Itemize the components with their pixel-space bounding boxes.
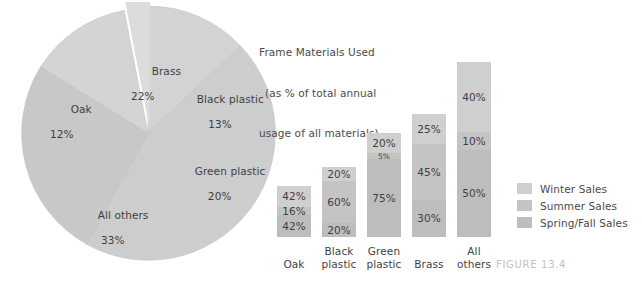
bar-category-label: Allothers <box>447 245 501 270</box>
bar-category-label-line-2: others <box>447 258 501 271</box>
pie-chart: Brass 22% Black plastic 13% Oak 12% Gree… <box>14 2 284 270</box>
pie-label-green-plastic: Green plastic 20% <box>174 152 265 227</box>
bar-segment-winter-sales[interactable]: 40% <box>457 62 491 132</box>
pie-label-all-others-name: All others <box>98 209 149 221</box>
bar-stack[interactable]: 40%10%50% <box>457 62 491 237</box>
bar-segment-value: 20% <box>327 224 351 236</box>
pie-label-oak-name: Oak <box>71 103 92 115</box>
stacked-bar-chart: 42%16%42%Oak20%60%20%Blackplastic20%5%75… <box>270 45 520 270</box>
bar-segment-value: 10% <box>462 135 486 147</box>
bar-segment-spring-fall-sales[interactable]: 20% <box>322 223 356 237</box>
legend-item-winter-sales[interactable]: Winter Sales <box>517 180 637 197</box>
bar-segment-value: 75% <box>372 192 396 204</box>
pie-label-oak: Oak 12% <box>50 90 92 165</box>
bar-segment-winter-sales[interactable]: 20% <box>367 133 401 154</box>
bar-segment-summer-sales[interactable]: 45% <box>412 144 446 200</box>
bar-stack[interactable]: 20%5%75% <box>367 133 401 238</box>
legend-item-summer-sales[interactable]: Summer Sales <box>517 197 637 214</box>
pie-label-black-plastic-name: Black plastic <box>197 93 264 105</box>
bar-stack[interactable]: 20%60%20% <box>322 167 356 237</box>
legend-item-spring-fall-sales[interactable]: Spring/Fall Sales <box>517 214 637 231</box>
bar-segment-value: 42% <box>282 220 306 232</box>
bar-segment-summer-sales[interactable]: 60% <box>322 181 356 223</box>
bar-segment-spring-fall-sales[interactable]: 30% <box>412 200 446 237</box>
bar-stack[interactable]: 25%45%30% <box>412 114 446 238</box>
bar-segment-value: 60% <box>327 196 351 208</box>
bar-segment-value: 20% <box>372 137 396 149</box>
bar-segment-value: 42% <box>282 190 306 202</box>
pie-label-brass-name: Brass <box>152 65 181 77</box>
bar-segment-summer-sales[interactable]: 10% <box>457 132 491 149</box>
pie-label-black-plastic: Black plastic 13% <box>176 80 264 155</box>
legend-swatch-icon <box>517 183 532 194</box>
bar-category-label-line-1: Green <box>357 245 411 258</box>
bar-segment-value: 25% <box>417 123 441 135</box>
bar-segment-value: 45% <box>417 166 441 178</box>
bar-segment-value: 30% <box>417 212 441 224</box>
bar-segment-winter-sales[interactable]: 42% <box>277 186 311 208</box>
legend-swatch-icon <box>517 200 532 211</box>
pie-label-oak-value: 12% <box>50 128 92 141</box>
legend-swatch-icon <box>517 217 532 228</box>
legend-label: Summer Sales <box>540 200 617 212</box>
pie-label-brass-value: 22% <box>131 90 181 103</box>
legend-label: Winter Sales <box>540 183 607 195</box>
pie-label-all-others: All others 33% <box>77 196 148 271</box>
figure-canvas: Brass 22% Black plastic 13% Oak 12% Gree… <box>0 0 642 281</box>
bar-segment-value: 20% <box>327 168 351 180</box>
bar-segment-spring-fall-sales[interactable]: 42% <box>277 215 311 237</box>
bar-category-label-line-1: All <box>447 245 501 258</box>
chart-legend: Winter SalesSummer SalesSpring/Fall Sale… <box>517 180 637 231</box>
bar-segment-winter-sales[interactable]: 25% <box>412 114 446 145</box>
pie-label-all-others-value: 33% <box>77 234 148 247</box>
bar-segment-summer-sales[interactable]: 16% <box>277 207 311 215</box>
bar-segment-spring-fall-sales[interactable]: 50% <box>457 150 491 237</box>
bar-segment-value: 40% <box>462 91 486 103</box>
pie-label-green-plastic-name: Green plastic <box>195 165 266 177</box>
figure-caption: FIGURE 13.4 <box>496 259 566 270</box>
bar-segment-spring-fall-sales[interactable]: 75% <box>367 159 401 237</box>
bar-segment-value: 50% <box>462 187 486 199</box>
pie-label-green-plastic-value: 20% <box>174 190 265 203</box>
pie-label-black-plastic-value: 13% <box>176 118 264 131</box>
bar-segment-winter-sales[interactable]: 20% <box>322 167 356 181</box>
pie-label-brass: Brass 22% <box>131 52 181 127</box>
bar-stack[interactable]: 42%16%42% <box>277 186 311 237</box>
legend-label: Spring/Fall Sales <box>540 217 628 229</box>
